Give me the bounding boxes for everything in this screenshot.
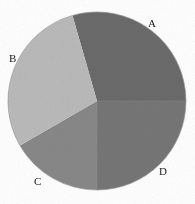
pie-label-c: C: [34, 176, 42, 187]
pie-label-d: D: [159, 166, 167, 177]
pie-chart: A B C D: [0, 0, 195, 204]
pie-label-a: A: [148, 18, 156, 29]
pie-slice-d[interactable]: [97, 101, 186, 190]
pie-label-b: B: [9, 53, 17, 64]
